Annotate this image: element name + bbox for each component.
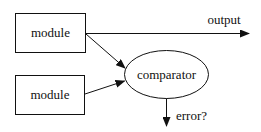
output-edge: output: [86, 12, 250, 34]
module-node-top: module: [16, 14, 86, 53]
comparator-label: comparator: [137, 67, 197, 82]
diagram-canvas: module module comparator output error?: [0, 0, 261, 132]
edge-module-top-to-comparator: [86, 34, 125, 68]
module-top-label: module: [31, 25, 70, 40]
module-node-bottom: module: [16, 76, 85, 115]
error-label: error?: [176, 108, 207, 123]
output-label: output: [207, 12, 241, 27]
module-bottom-label: module: [31, 87, 70, 102]
error-edge: error?: [167, 99, 208, 127]
edge-module-bottom-to-comparator: [85, 81, 125, 94]
comparator-node: comparator: [125, 51, 209, 99]
